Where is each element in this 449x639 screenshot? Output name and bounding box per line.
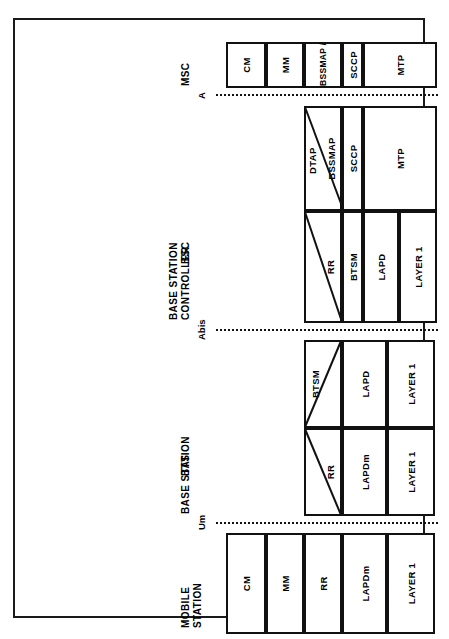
bsc-box-lapd-label: LAPD [376,213,387,321]
msc-box-sccp: SCCP [342,42,363,88]
interface-label-a: A [196,92,207,99]
ms-box-lapdm-label: LAPDm [359,535,370,632]
mobile-station-title-line2: STATION [192,583,204,628]
ms-box-mm: MM [266,533,304,634]
msc-box-mm: MM [266,42,304,88]
bsc-abbrev: BSC [180,242,192,264]
bts-box-lapd: LAPD [342,340,387,428]
msc-box-cm-label: CM [241,44,252,86]
bts-abbrev: BTS [180,455,192,476]
bts-box-layer1-um-label: LAYER 1 [406,430,417,514]
bts-box-layer1-abis: LAYER 1 [387,340,435,428]
bts-box-rr-label: RR [325,430,336,514]
bsc-box-btsm: BTSM [342,211,363,323]
ms-box-rr-label: RR [318,535,329,632]
bsc-box-bssmap-label: BSSMAP [326,108,337,209]
interface-label-um: Um [196,515,207,530]
section-title-msc: MSC [180,63,192,86]
bsc-box-sccp-label: SCCP [347,108,358,209]
interface-line-um [216,522,438,524]
bts-box-layer1-um: LAYER 1 [387,428,435,516]
msc-box-sccp-label: SCCP [347,44,358,86]
msc-box-mtp-label: MTP [395,44,406,86]
bts-box-lapdm: LAPDm [342,428,387,516]
msc-box-mm-label: MM [280,44,291,86]
ms-box-cm-label: CM [241,535,252,632]
bsc-box-layer1: LAYER 1 [399,211,437,323]
bts-box-btsm-label: BTSM [310,342,321,426]
ms-box-layer1-label: LAYER 1 [406,535,417,632]
bsc-box-lapd: LAPD [363,211,399,323]
ms-box-lapdm: LAPDm [342,533,387,634]
page-border-frame: MOBILE STATION CM MM RR LAPDm LAYER 1 Um [13,18,425,618]
bts-box-lapdm-label: LAPDm [359,430,370,514]
bts-box-layer1-abis-label: LAYER 1 [406,342,417,426]
bsc-box-mtp: MTP [363,106,437,211]
bts-box-rr: RR [304,428,342,516]
bsc-box-sccp: SCCP [342,106,363,211]
section-title-mobile-station: MOBILE STATION [180,583,204,628]
interface-line-a [216,94,438,96]
msc-box-cm: CM [226,42,266,88]
bsc-box-layer1-label: LAYER 1 [413,213,424,321]
bsc-box-mtp-label: MTP [395,108,406,209]
diagram-stage: MOBILE STATION CM MM RR LAPDm LAYER 1 Um [30,40,438,636]
bts-box-lapd-label: LAPD [359,342,370,426]
ms-box-layer1: LAYER 1 [387,533,435,634]
bsc-box-dtap-label: DTAP [307,147,319,174]
protocol-stack-diagram: MOBILE STATION CM MM RR LAPDm LAYER 1 Um [30,40,438,636]
interface-label-abis: Abis [196,319,207,340]
bts-box-btsm: BTSM [304,340,342,428]
msc-box-bssmap-dtap: BSSMAP / DTAP [304,42,342,88]
bsc-box-btsm-label: BTSM [347,213,358,321]
ms-box-cm: CM [226,533,266,634]
bsc-title-line1: BASE STATION [168,242,180,320]
bsc-box-rr: RR [304,211,342,323]
ms-box-rr: RR [304,533,342,634]
interface-line-abis [216,329,438,331]
ms-box-mm-label: MM [280,535,291,632]
bsc-box-rr-label: RR [325,213,336,321]
msc-box-bssmap-dtap-label: BSSMAP / DTAP [318,44,329,86]
mobile-station-title-line1: MOBILE [180,583,192,628]
msc-box-mtp: MTP [363,42,437,88]
